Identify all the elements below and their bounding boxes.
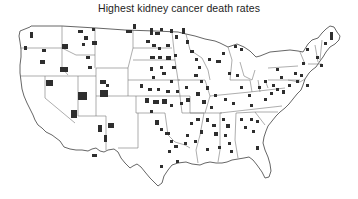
highlighted-county (196, 92, 200, 96)
highlighted-county (200, 130, 203, 134)
highlighted-county (84, 36, 88, 40)
highlighted-county (150, 56, 155, 59)
us-map (0, 0, 358, 199)
highlighted-county (240, 48, 243, 51)
highlighted-county (150, 110, 153, 113)
highlighted-county (30, 32, 33, 38)
highlighted-county (150, 67, 153, 71)
highlighted-county (170, 80, 173, 83)
highlighted-county (160, 128, 163, 131)
highlighted-county (230, 150, 233, 153)
highlighted-county (180, 102, 183, 105)
highlighted-county (300, 74, 303, 77)
highlighted-county (248, 94, 251, 97)
highlighted-county (170, 140, 173, 143)
highlighted-county (78, 30, 83, 33)
highlighted-county (182, 28, 185, 34)
highlighted-county (186, 98, 190, 102)
highlighted-county (162, 99, 167, 104)
highlighted-county (190, 50, 194, 53)
highlighted-county (214, 132, 218, 136)
highlighted-county (152, 44, 156, 47)
highlighted-county (166, 44, 170, 47)
highlighted-county (206, 118, 209, 122)
highlighted-county (100, 90, 108, 97)
highlighted-county (195, 58, 198, 61)
highlighted-county (240, 118, 243, 121)
highlighted-county (296, 80, 299, 83)
highlighted-county (240, 86, 243, 89)
highlighted-county (222, 52, 225, 55)
highlighted-county (140, 84, 143, 88)
highlighted-county (276, 68, 279, 71)
highlighted-county (92, 41, 97, 45)
highlighted-county (24, 46, 27, 50)
highlighted-county (256, 120, 259, 123)
highlighted-county (244, 126, 247, 129)
highlighted-county (306, 84, 309, 87)
highlighted-county (256, 146, 259, 150)
highlighted-county (306, 48, 309, 51)
highlighted-county (272, 84, 275, 87)
highlighted-county (294, 72, 297, 75)
highlighted-county (150, 28, 153, 35)
highlighted-county (168, 150, 171, 153)
highlighted-county (60, 67, 68, 72)
highlighted-county (174, 54, 177, 57)
highlighted-county (71, 110, 77, 118)
highlighted-county (146, 40, 150, 43)
highlighted-county (86, 56, 90, 59)
highlighted-county (148, 88, 152, 91)
highlighted-county (172, 66, 176, 69)
highlighted-county (214, 94, 217, 97)
highlighted-county (153, 100, 159, 104)
highlighted-county (206, 86, 209, 90)
highlighted-county (224, 98, 227, 101)
highlighted-county (170, 29, 173, 33)
highlighted-county (222, 118, 225, 121)
highlighted-county (186, 134, 189, 137)
highlighted-county (282, 90, 285, 94)
highlighted-county (228, 142, 231, 145)
highlighted-county (316, 56, 319, 59)
highlighted-county (270, 92, 273, 95)
highlighted-county (232, 102, 235, 105)
highlighted-county (155, 32, 160, 35)
highlighted-county (280, 76, 283, 79)
highlighted-county (218, 146, 221, 149)
highlighted-county (252, 130, 255, 133)
highlighted-county (194, 74, 198, 77)
highlighted-county (212, 124, 216, 127)
highlighted-county (194, 140, 197, 143)
highlighted-county (176, 90, 179, 93)
highlighted-county (108, 123, 114, 128)
highlighted-county (176, 160, 179, 163)
highlighted-county (302, 62, 305, 65)
highlighted-county (160, 165, 163, 168)
highlighted-county (92, 28, 95, 31)
highlighted-county (174, 145, 178, 148)
highlighted-county (160, 66, 163, 69)
highlighted-county (158, 47, 161, 50)
highlighted-county (165, 132, 170, 135)
highlighted-county (330, 32, 333, 40)
highlighted-county (104, 135, 107, 142)
highlighted-county (250, 104, 253, 107)
highlighted-county (196, 118, 200, 121)
highlighted-county (202, 100, 206, 104)
highlighted-county (106, 84, 109, 87)
highlighted-county (198, 66, 201, 69)
highlighted-county (216, 60, 221, 63)
highlighted-county (250, 118, 253, 121)
highlighted-county (264, 80, 267, 83)
highlighted-county (185, 86, 188, 89)
highlighted-county (145, 98, 149, 103)
highlighted-county (152, 76, 155, 79)
highlighted-county (226, 124, 230, 128)
highlighted-county (184, 142, 187, 145)
highlighted-county (157, 88, 160, 91)
highlighted-county (158, 56, 162, 59)
highlighted-county (264, 98, 267, 101)
highlighted-county (78, 92, 87, 100)
highlighted-county (88, 66, 92, 69)
